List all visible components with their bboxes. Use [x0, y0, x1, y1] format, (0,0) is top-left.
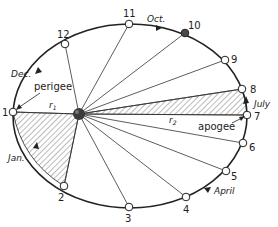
label-perigee: perigee [34, 81, 72, 92]
label-july: July [252, 99, 271, 109]
label-point-3: 3 [125, 213, 131, 224]
label-point-12: 12 [57, 29, 70, 40]
sun-icon [73, 108, 85, 120]
label-point-7: 7 [254, 111, 260, 122]
label-apogee: apogee [198, 121, 235, 132]
label-r1: r1 [49, 100, 57, 111]
sun-highlight [75, 110, 79, 114]
point-12 [61, 40, 69, 48]
label-point-9: 9 [231, 54, 237, 65]
label-point-10: 10 [188, 20, 201, 31]
arrow-oct-icon [156, 25, 162, 31]
label-point-5: 5 [231, 171, 237, 182]
orbit-diagram: 1 2 3 4 5 6 7 8 9 10 11 12 Dec. Jan. Oct… [0, 0, 278, 227]
label-point-11: 11 [123, 8, 136, 19]
point-7 [243, 111, 251, 119]
label-point-1: 1 [2, 107, 8, 118]
label-point-6: 6 [249, 142, 255, 153]
apogee-arrow-icon [239, 116, 245, 121]
label-dec: Dec. [11, 69, 31, 79]
point-6 [239, 139, 247, 147]
label-point-8: 8 [250, 84, 256, 95]
label-jan: Jan. [6, 153, 25, 163]
arrow-april-icon [204, 187, 211, 193]
point-8 [238, 85, 246, 93]
point-2 [60, 182, 68, 190]
label-oct: Oct. [147, 14, 165, 24]
arrow-dec-icon [35, 67, 42, 74]
point-9 [221, 56, 229, 64]
point-1 [9, 108, 17, 116]
label-r2: r2 [169, 115, 177, 126]
label-april: April [213, 186, 235, 196]
perigee-pointer [18, 93, 40, 108]
point-5 [222, 167, 230, 175]
point-4 [182, 193, 190, 201]
hatched-sector-winter [13, 112, 79, 186]
point-11 [125, 20, 133, 28]
point-3 [125, 203, 133, 211]
label-point-2: 2 [58, 192, 64, 203]
hatched-sector-summer [79, 89, 247, 115]
perigee-arrow-icon [16, 104, 22, 110]
label-point-4: 4 [183, 204, 189, 215]
